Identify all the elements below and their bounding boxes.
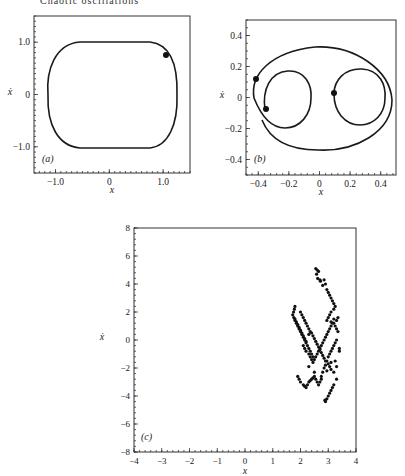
panel-a: −1.001.0−1.001.0 x ẋ (a) [7,16,190,195]
scatter-point [320,351,323,354]
panel-c-scatter [291,267,341,403]
scatter-point [309,350,312,353]
scatter-point [293,305,296,308]
scatter-point [325,333,328,336]
x-tick-label: 1 [271,456,276,466]
scatter-point [304,350,307,353]
scatter-point [296,323,299,326]
scatter-point [332,344,335,347]
scatter-point [304,340,307,343]
x-tick-label: 0.2 [344,179,356,189]
scatter-point [328,352,331,355]
scatter-point [325,319,328,322]
scatter-point [307,327,310,330]
scatter-point [327,316,330,319]
scatter-point [314,378,317,381]
panel-b: −0.4−0.200.20.4−0.4−0.200.20.4 x ẋ (b) [219,20,396,197]
scatter-point [329,324,332,327]
running-head: Chaotic oscillations [40,0,139,6]
x-tick-label: 0.4 [375,179,387,189]
scatter-point [291,313,294,316]
scatter-point [318,348,321,351]
scatter-point [300,313,303,316]
scatter-point [317,345,320,348]
scatter-point [299,329,302,332]
scatter-point [329,389,332,392]
scatter-point [321,354,324,357]
scatter-point [338,350,341,353]
scatter-point [293,317,296,320]
scatter-point [320,344,323,347]
scatter-point [327,362,330,365]
scatter-point [321,371,324,374]
scatter-point [307,365,310,368]
scatter-point [322,278,325,281]
scatter-point [332,308,335,311]
scatter-point [331,299,334,302]
scatter-point [306,324,309,327]
scatter-point [313,358,316,361]
scatter-point [332,317,335,320]
scatter-point [310,358,313,361]
scatter-point [322,366,325,369]
y-tick-label: −1.0 [13,142,30,152]
y-tick-label: −8 [120,447,130,457]
scatter-point [307,352,310,355]
scatter-point [334,305,337,308]
x-tick-label: 2 [298,456,303,466]
scatter-point [321,284,324,287]
scatter-point [313,375,316,378]
scatter-point [328,327,331,330]
scatter-point [319,280,322,283]
panel-b-left-loop [254,71,311,128]
panel-b-xlabel: x [318,186,324,197]
scatter-point [328,294,331,297]
x-tick-label: −3 [157,456,167,466]
x-tick-label: −1.0 [47,177,64,187]
scatter-point [311,355,314,358]
y-tick-label: 0 [25,90,30,100]
panel-b-marker-3 [331,90,337,96]
panel-c-xlabel: x [242,465,248,476]
panel-c: −4−3−2−101234−8−6−4−202468 x ẋ (c) [99,223,359,476]
scatter-point [322,357,325,360]
scatter-point [336,316,339,319]
panel-b-marker-2 [263,106,269,112]
y-tick-label: 0 [237,93,242,103]
scatter-point [325,288,328,291]
scatter-point [299,380,302,383]
scatter-point [310,331,313,334]
scatter-point [313,337,316,340]
scatter-point [316,380,319,383]
scatter-point [314,340,317,343]
scatter-point [327,355,330,358]
y-tick-label: −2 [120,363,130,373]
y-tick-label: 0.2 [230,62,242,72]
x-tick-label: 4 [354,456,359,466]
scatter-point [304,322,307,325]
panel-a-xlabel: x [109,184,115,195]
y-tick-label: 2 [126,307,131,317]
scatter-point [302,334,305,337]
y-tick-label: 8 [126,223,131,233]
panel-b-frame [246,20,396,175]
y-tick-label: 4 [126,279,131,289]
scatter-point [306,344,309,347]
y-tick-label: 0.4 [230,31,242,41]
scatter-point [316,343,319,346]
scatter-point [327,394,330,397]
scatter-point [313,371,316,374]
scatter-point [311,361,314,364]
scatter-point [334,341,337,344]
scatter-point [335,319,338,322]
scatter-point [332,383,335,386]
scatter-point [332,322,335,325]
scatter-point [329,368,332,371]
x-tick-label: −0.4 [250,179,267,189]
y-tick-label: −0.4 [225,155,242,165]
scatter-point [324,282,327,285]
scatter-point [315,273,318,276]
scatter-point [317,270,320,273]
scatter-point [320,378,323,381]
scatter-point [335,378,338,381]
